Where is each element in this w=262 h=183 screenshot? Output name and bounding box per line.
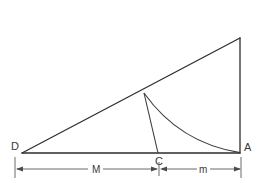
diagram-canvas: D C A M m [0,0,262,183]
arrowhead-m-start [16,166,23,171]
dimension-label-m: M [92,164,100,175]
branch-to-a-curve [144,93,240,153]
vertex-label-a: A [244,141,252,153]
arrowhead-m-end [151,166,158,171]
vertex-label-d: D [11,140,19,152]
arrowhead-small-m-start [160,166,167,171]
triangle-hypotenuse [22,38,240,153]
dimension-label-small-m: m [199,164,207,175]
triangle-diagram: D C A M m [0,0,262,183]
arrowhead-small-m-end [234,166,241,171]
